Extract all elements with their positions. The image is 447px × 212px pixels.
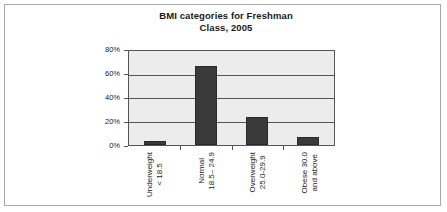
bar-slot-underweight <box>129 51 180 145</box>
bar-obese <box>297 137 319 145</box>
bar-slot-obese <box>283 51 334 145</box>
x-tick-mark-2 <box>232 146 233 150</box>
chart-title-line-1: BMI categories for Freshman <box>159 10 293 21</box>
bar-underweight <box>144 141 166 145</box>
bars-layer <box>129 51 334 145</box>
x-label-underweight: Underweight < 18.5 <box>144 152 163 197</box>
chart-title-line-2: Class, 2005 <box>200 22 253 33</box>
x-axis: Underweight < 18.5 Normal 18.5– 24.9 Ove… <box>128 152 335 208</box>
bar-overweight <box>246 117 268 145</box>
x-tick-mark-1 <box>180 146 181 150</box>
chart-figure: BMI categories for Freshman Class, 2005 … <box>0 0 447 212</box>
x-label-obese-line-1: Obese 30.0 <box>300 152 309 193</box>
bar-slot-overweight <box>232 51 283 145</box>
x-label-slot-normal: Normal 18.5– 24.9 <box>180 152 232 208</box>
y-tick-label-60: 60% <box>105 70 120 78</box>
x-label-normal: Normal 18.5– 24.9 <box>196 152 215 190</box>
y-tick-label-80: 80% <box>105 46 120 54</box>
y-tick-mark-0 <box>124 146 128 147</box>
x-label-obese-line-2: and above <box>309 152 319 193</box>
x-label-overweight: Overweight 25.0-29.9 <box>248 152 267 192</box>
y-axis: 80% 60% 40% 20% 0% <box>96 44 124 152</box>
x-label-slot-obese: Obese 30.0 and above <box>283 152 335 208</box>
x-label-overweight-line-2: 25.0-29.9 <box>257 152 267 192</box>
x-label-normal-line-1: Normal <box>196 158 205 184</box>
chart-title: BMI categories for Freshman Class, 2005 <box>100 10 352 34</box>
x-tick-mark-3 <box>283 146 284 150</box>
x-label-obese: Obese 30.0 and above <box>300 152 319 193</box>
y-tick-label-0: 0% <box>109 142 120 150</box>
bar-normal <box>195 66 217 145</box>
x-label-normal-line-2: 18.5– 24.9 <box>206 152 216 190</box>
bar-slot-normal <box>180 51 231 145</box>
y-tick-label-20: 20% <box>105 118 120 126</box>
plot-area <box>128 50 335 146</box>
x-label-underweight-line-1: Underweight <box>144 152 153 197</box>
x-label-slot-overweight: Overweight 25.0-29.9 <box>232 152 284 208</box>
x-label-underweight-line-2: < 18.5 <box>154 152 164 197</box>
x-label-overweight-line-1: Overweight <box>248 152 257 192</box>
y-tick-label-40: 40% <box>105 94 120 102</box>
x-label-slot-underweight: Underweight < 18.5 <box>128 152 180 208</box>
